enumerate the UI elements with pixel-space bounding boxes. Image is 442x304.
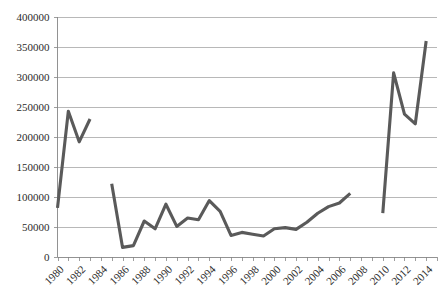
x-tick-label: 1986 [107,263,131,287]
y-tick-label: 400000 [17,11,51,23]
x-tick-label: 2000 [259,263,283,287]
y-tick-label: 200000 [17,131,51,143]
y-tick-label: 0 [44,251,50,263]
chart-container: 0500001000001500002000002500003000003500… [0,0,442,304]
y-tick-label: 100000 [17,191,51,203]
x-tick-label: 2008 [345,263,369,287]
x-tick-label: 2010 [367,263,391,287]
data-line-series-3 [383,41,426,213]
x-tick-label: 2014 [411,263,435,287]
y-tick-label: 250000 [17,101,51,113]
y-tick-label: 300000 [17,71,51,83]
x-tick-label: 1990 [150,263,174,287]
x-tick-label: 1984 [85,263,109,287]
y-axis-tick-marks [54,18,58,258]
x-tick-label: 2002 [280,263,304,287]
data-series-group [58,41,427,247]
x-tick-label: 2006 [324,263,348,287]
x-tick-label: 1982 [64,263,88,287]
y-axis-tick-labels: 0500001000001500002000002500003000003500… [17,11,51,263]
y-tick-label: 50000 [22,221,50,233]
line-chart: 0500001000001500002000002500003000003500… [0,0,442,304]
y-tick-label: 350000 [17,41,51,53]
x-tick-label: 1980 [42,263,66,287]
data-line-series-1 [58,111,91,208]
x-tick-label: 1988 [129,263,153,287]
x-axis-tick-labels: 1980198219841986198819901992199419961998… [42,263,435,287]
x-tick-label: 1994 [194,263,218,287]
x-tick-label: 1998 [237,263,261,287]
x-tick-label: 2004 [302,263,326,287]
data-line-series-2 [112,184,351,248]
x-tick-label: 1996 [215,263,239,287]
y-tick-label: 150000 [17,161,51,173]
x-tick-label: 2012 [389,263,413,287]
x-tick-label: 1992 [172,263,196,287]
